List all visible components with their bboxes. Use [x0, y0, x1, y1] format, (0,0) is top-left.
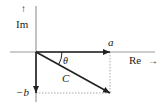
imaginary-component-label: −b: [16, 86, 29, 98]
angle-arc: [59, 52, 62, 65]
real-axis-label: Re: [129, 54, 141, 66]
imaginary-axis-arrow: ↑: [21, 3, 26, 14]
real-component-label: a: [108, 36, 114, 48]
complex-plane-diagram: ↑ Im Re → a −b C θ: [0, 0, 166, 106]
imaginary-axis-label: Im: [16, 18, 29, 30]
resultant-label: C: [62, 72, 70, 84]
resultant-vector: [36, 52, 110, 93]
angle-label: θ: [63, 55, 68, 66]
real-axis-arrow: →: [148, 55, 158, 66]
